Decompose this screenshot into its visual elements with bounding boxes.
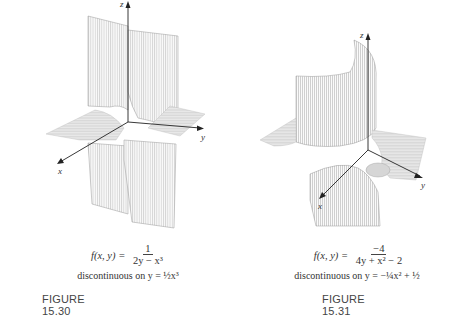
upper-left-sheet: [88, 16, 128, 110]
discontinuity-note-15-30: discontinuous on y = ½x³: [68, 270, 188, 281]
surface-plot-15-31: z y x: [230, 10, 430, 230]
y-axis-label: y: [420, 180, 425, 190]
z-arrow-icon: [366, 33, 371, 40]
surface-plot-15-30: z y x: [20, 0, 220, 230]
z-axis-label: z: [359, 30, 364, 40]
lower-right-sheet: [124, 140, 176, 228]
singularity-hole: [366, 163, 390, 177]
flat-plane-left: [46, 110, 124, 140]
upper-curved-sheet: [296, 40, 376, 147]
z-axis-label: z: [119, 0, 124, 9]
z-arrow-icon: [126, 1, 131, 8]
figure-label-15-30: FIGURE 15.30: [42, 293, 85, 317]
x-axis-label: x: [317, 201, 322, 211]
x-arrow-icon: [57, 158, 64, 164]
flat-wing-left: [260, 118, 296, 146]
discontinuity-note-15-31: discontinuous on y = −¼x² + ½: [272, 270, 442, 281]
formula-15-30: f(x, y) = 1 2y − x³: [58, 243, 198, 267]
y-arrow-icon: [197, 126, 204, 132]
fraction: −4 4y + x² − 2: [354, 243, 405, 267]
formula-15-31: f(x, y) = −4 4y + x² − 2: [284, 243, 434, 267]
lower-left-sheet: [88, 143, 128, 214]
fraction: 1 2y − x³: [131, 243, 165, 267]
x-axis-label: x: [57, 166, 62, 176]
y-axis-label: y: [200, 132, 205, 142]
figure-label-15-31: FIGURE 15.31: [322, 293, 365, 317]
